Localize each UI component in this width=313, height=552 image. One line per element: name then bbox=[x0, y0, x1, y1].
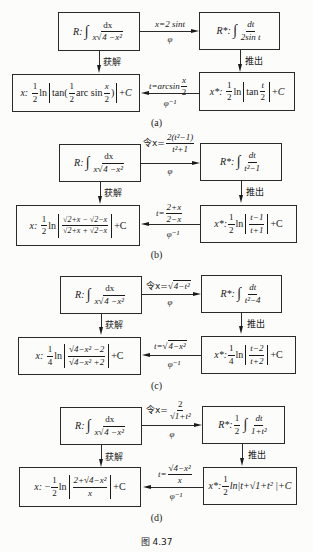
forward-arrowhead bbox=[192, 161, 200, 165]
back-arrowhead bbox=[142, 353, 150, 357]
obtain-solution-label: 获解 bbox=[103, 58, 121, 67]
box-xstar-a: x*: 12lntant2+C bbox=[199, 72, 295, 111]
forward-substitution: 令x=√4−t² bbox=[146, 282, 191, 291]
box-r-a: R: ∫ dx x√4 −x² bbox=[58, 12, 140, 51]
box-x-d: x: −12ln2+√4−x²x+C bbox=[19, 467, 141, 507]
box-rstar-c: R*: ∫ dtt²−4 bbox=[201, 275, 282, 313]
box-rstar-d: R*: 12 ∫ dt1+t² bbox=[202, 406, 285, 444]
down-right-arrowhead bbox=[240, 458, 244, 466]
forward-phi: φ bbox=[160, 298, 180, 307]
integral-sign: ∫ bbox=[85, 24, 89, 39]
back-substitution: t=arcsinx2 bbox=[149, 76, 188, 98]
obtain-solution-label: 获解 bbox=[105, 321, 123, 330]
down-left-arrowhead bbox=[97, 65, 101, 73]
r-label: R: bbox=[73, 27, 82, 37]
back-substitution: t=2+x2−x bbox=[156, 203, 183, 225]
caption-d: (d) bbox=[0, 512, 313, 523]
derive-label: 推出 bbox=[247, 320, 265, 329]
down-right-arrowhead bbox=[239, 195, 243, 203]
back-phi-inverse: φ⁻¹ bbox=[164, 360, 184, 369]
forward-arrow-line bbox=[142, 294, 194, 295]
box-x-b: x: 12ln√2+x − √2−x√2+x + √2−x+C bbox=[16, 205, 140, 246]
box-r-c: R: ∫ dxx√4 −x² bbox=[60, 276, 142, 314]
forward-arrowhead bbox=[191, 29, 199, 33]
box-xstar-b: x*: 12lnt−1t+1+C bbox=[200, 205, 297, 243]
back-arrowhead bbox=[141, 222, 149, 226]
forward-arrow-line bbox=[140, 31, 192, 32]
obtain-solution-label: 获解 bbox=[104, 189, 122, 198]
obtain-solution-label: 获解 bbox=[105, 453, 123, 462]
box-rstar-a: R*: ∫ dt 2sin t bbox=[199, 12, 280, 50]
forward-arrowhead bbox=[193, 292, 201, 296]
box-xstar-d: x*: 12ln|t+√1+t² |+C bbox=[203, 467, 297, 505]
back-arrowhead bbox=[143, 485, 151, 489]
back-arrow-line bbox=[149, 355, 201, 356]
back-phi-inverse: φ⁻¹ bbox=[166, 492, 186, 501]
box-r-b: R: ∫ dxx√4 −x² bbox=[59, 144, 141, 182]
forward-substitution: 令x=2√1+t² bbox=[146, 400, 193, 422]
box-x-c: x: 14ln√4−x² −2√4−x² +2+C bbox=[18, 337, 141, 375]
back-phi-inverse: φ⁻¹ bbox=[163, 230, 183, 239]
box-x-a: x: 12lntan(12arc sinx2)+C bbox=[12, 74, 140, 112]
forward-arrowhead bbox=[194, 423, 202, 427]
back-arrowhead bbox=[141, 91, 149, 95]
caption-b: (b) bbox=[0, 249, 313, 260]
derive-label: 推出 bbox=[245, 57, 263, 66]
forward-arrow-line bbox=[141, 163, 193, 164]
back-phi-inverse: φ⁻¹ bbox=[160, 99, 180, 108]
box-r-d: R: ∫ dxx√4 −x² bbox=[60, 407, 142, 445]
down-left-arrowhead bbox=[99, 327, 103, 335]
derive-label: 推出 bbox=[248, 451, 266, 460]
back-substitution: t=√4−x²x bbox=[158, 464, 193, 486]
forward-phi: φ bbox=[160, 167, 180, 176]
box-rstar-b: R*: ∫ dtt²−1 bbox=[200, 143, 282, 181]
down-right-arrowhead bbox=[239, 326, 243, 334]
box-xstar-c: x*: 14lnt−2t+2+C bbox=[201, 336, 296, 374]
forward-phi: φ bbox=[148, 35, 192, 44]
caption-c: (c) bbox=[0, 380, 313, 391]
figure-caption: 图 4.37 bbox=[0, 535, 313, 548]
caption-a: (a) bbox=[0, 117, 313, 128]
integrand-fraction: dx x√4 −x² bbox=[91, 21, 123, 43]
forward-substitution: x=2 sint bbox=[148, 20, 192, 29]
derive-label: 推出 bbox=[246, 188, 264, 197]
down-right-arrowhead bbox=[238, 64, 242, 72]
back-arrow-line bbox=[150, 487, 203, 488]
down-left-arrowhead bbox=[99, 459, 103, 467]
forward-arrow-line bbox=[142, 425, 195, 426]
forward-phi: φ bbox=[162, 430, 182, 439]
back-substitution: t=√4−x² bbox=[154, 342, 187, 351]
forward-substitution: 令x=2(t²−1)t²+1 bbox=[143, 133, 195, 155]
down-left-arrowhead bbox=[98, 196, 102, 204]
